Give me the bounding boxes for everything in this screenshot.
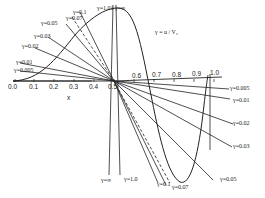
x-tick-label: 0.4 <box>89 84 98 91</box>
gamma-label: γ=1.0 <box>124 176 138 182</box>
gamma-label: γ=0.02 <box>233 120 250 126</box>
gamma-label: γ=1.01 <box>97 5 114 11</box>
x-tick-label: 1.0 <box>210 70 219 77</box>
x-tick-label: 0.9 <box>192 71 201 78</box>
x-axis-label: x <box>67 95 70 102</box>
gamma-lines <box>20 5 233 185</box>
gamma-label: γ=0.03 <box>233 143 250 149</box>
gamma-label: γ=0.03 <box>34 33 51 39</box>
gamma-label: γ=0.01 <box>233 97 250 103</box>
x-tick-label: 0.0 <box>8 84 17 91</box>
diagram-figure <box>0 0 265 198</box>
x-tick-label: 0.5 <box>108 84 117 91</box>
gamma-label: γ=0.07 <box>66 15 83 21</box>
gamma-label: γ=∞ <box>101 177 111 183</box>
x-tick-label: 0.1 <box>29 84 38 91</box>
x-tick-label: 0.2 <box>49 84 58 91</box>
gamma-label: γ=0.05 <box>220 176 237 182</box>
gamma-dashed-lines <box>72 17 170 183</box>
gamma-label: γ=0.005 <box>14 67 34 73</box>
gamma-label: γ=0.07 <box>172 184 189 190</box>
gamma-label: γ=0.05 <box>41 20 58 26</box>
x-tick-label: 0.6 <box>132 73 141 80</box>
x-tick-label: 0.3 <box>69 84 78 91</box>
gamma-label: γ=∞ <box>115 5 125 11</box>
gamma-label: γ=0.01 <box>16 59 33 65</box>
gamma-label: γ=0.005 <box>230 85 250 91</box>
gamma-label: γ=0.1 <box>157 181 171 187</box>
gamma-definition: γ = u / V₀ <box>155 29 178 35</box>
x-axis-right-segment <box>114 77 222 81</box>
x-tick-label: 0.7 <box>152 72 161 79</box>
x-tick-label: 0.8 <box>172 72 181 79</box>
gamma-label: γ=0.02 <box>22 43 39 49</box>
